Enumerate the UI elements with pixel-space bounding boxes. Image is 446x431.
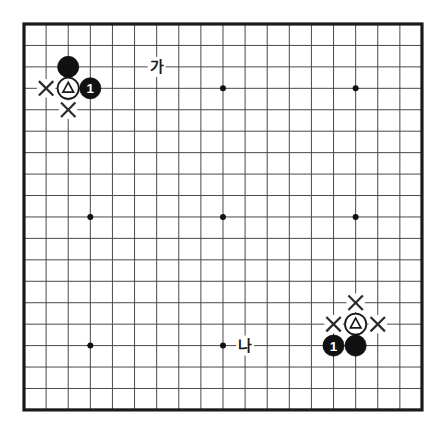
- go-board-diagram: 가나 11: [0, 0, 446, 431]
- star-point: [220, 214, 226, 220]
- star-point: [87, 214, 93, 220]
- star-point: [353, 85, 359, 91]
- label-na: 나: [238, 337, 252, 355]
- go-board-canvas: 가나 11: [0, 0, 446, 431]
- stone-black-br-black-one: 1: [323, 335, 344, 356]
- black-stone: [345, 335, 366, 356]
- stone-black-tl-black-upper: [58, 56, 79, 77]
- stone-white-br-white-triangle: [345, 314, 366, 335]
- stone-black-tl-black-one: 1: [80, 78, 101, 99]
- star-point: [220, 85, 226, 91]
- star-point: [220, 343, 226, 349]
- stone-black-br-black-plain: [345, 335, 366, 356]
- star-point: [353, 214, 359, 220]
- black-stone: [58, 56, 79, 77]
- label-ga: 가: [150, 58, 164, 76]
- stone-white-tl-white-triangle: [58, 78, 79, 99]
- stone-move-number: 1: [87, 81, 95, 96]
- star-point: [87, 343, 93, 349]
- stone-move-number: 1: [330, 339, 338, 354]
